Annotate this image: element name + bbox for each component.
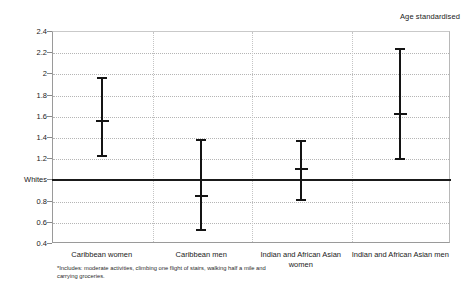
plot-area [52,31,450,243]
category-divider [352,32,353,242]
gridline [53,53,449,54]
y-tick-label: 1.6 [37,111,47,120]
chart-figure: Age standardised 0.40.60.8Whites1.21.41.… [0,0,468,293]
gridline [53,223,449,224]
data-point-marker [295,168,308,170]
y-tick-mark [47,243,52,244]
error-bar-upper-cap [395,48,405,50]
y-tick-label: 2.4 [37,27,47,36]
y-tick-label: 2.2 [37,48,47,57]
x-axis-label: Caribbean men [152,250,252,260]
error-bar-lower-cap [97,155,107,157]
error-bar-upper-cap [296,140,306,142]
x-axis-label: Indian and African Asian men [351,250,451,260]
gridline [53,74,449,75]
data-point-marker [195,195,208,197]
y-tick-label: 1.2 [37,154,47,163]
gridline [53,117,449,118]
x-axis-label: Caribbean women [52,250,152,260]
y-tick-label: 0.6 [37,217,47,226]
error-bar-lower-cap [395,158,405,160]
reference-line-label: Whites [24,175,47,184]
error-bar-stem [101,78,103,156]
gridline [53,138,449,139]
error-bar-upper-cap [196,139,206,141]
y-tick-label: 0.4 [37,239,47,248]
gridline [53,202,449,203]
reference-line [52,179,451,181]
category-divider [252,32,253,242]
error-bar-lower-cap [196,229,206,231]
data-point-marker [96,120,109,122]
error-bar-lower-cap [296,199,306,201]
y-tick-label: 2 [43,69,47,78]
category-divider [153,32,154,242]
data-point-marker [394,113,407,115]
y-tick-label: 0.8 [37,196,47,205]
chart-caption: Age standardised [400,12,460,21]
y-tick-label: 1.8 [37,90,47,99]
gridline [53,96,449,97]
error-bar-upper-cap [97,77,107,79]
error-bar-stem [200,140,202,230]
chart-footnote: *Includes: moderate activities, climbing… [57,265,277,280]
y-tick-label: 1.4 [37,133,47,142]
gridline [53,159,449,160]
error-bar-stem [399,49,401,159]
error-bar-stem [300,141,302,199]
